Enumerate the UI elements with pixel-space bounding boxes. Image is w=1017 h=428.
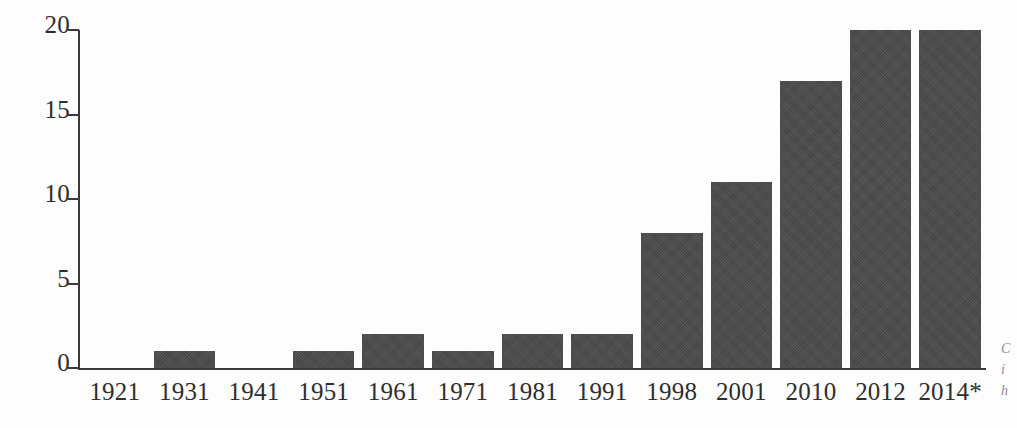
x-tick-label: 1941 bbox=[219, 378, 289, 407]
bar-group[interactable] bbox=[915, 30, 985, 368]
bar-group[interactable] bbox=[219, 30, 289, 368]
x-tick-label: 2012 bbox=[846, 378, 916, 407]
margin-caption-line-3: h bbox=[1001, 380, 1017, 401]
bar[interactable] bbox=[780, 81, 842, 368]
bar-group[interactable] bbox=[150, 30, 220, 368]
bar-group[interactable] bbox=[637, 30, 707, 368]
x-tick-label: 1951 bbox=[289, 378, 359, 407]
bar[interactable] bbox=[571, 334, 633, 368]
x-tick-label: 1961 bbox=[358, 378, 428, 407]
y-tick-mark bbox=[68, 283, 79, 285]
bar[interactable] bbox=[362, 334, 424, 368]
x-tick-label: 2014* bbox=[915, 378, 985, 407]
x-tick-label: 1991 bbox=[567, 378, 637, 407]
y-tick-label: 5 bbox=[10, 266, 70, 291]
x-axis-ticks: 1921193119411951196119711981199119982001… bbox=[80, 378, 985, 418]
bar[interactable] bbox=[919, 30, 981, 368]
bar-group[interactable] bbox=[567, 30, 637, 368]
y-tick-label: 15 bbox=[10, 97, 70, 122]
y-tick-mark bbox=[68, 198, 79, 200]
bar-group[interactable] bbox=[358, 30, 428, 368]
bar[interactable] bbox=[432, 351, 494, 368]
plot-area bbox=[80, 30, 985, 368]
y-tick-mark bbox=[68, 114, 79, 116]
y-tick-mark bbox=[68, 29, 79, 31]
y-tick-label: 0 bbox=[10, 350, 70, 375]
margin-caption-line-2: i bbox=[1001, 359, 1017, 380]
x-tick-label: 1981 bbox=[498, 378, 568, 407]
x-tick-label: 1971 bbox=[428, 378, 498, 407]
x-tick-label: 1931 bbox=[150, 378, 220, 407]
margin-caption-line-1: C bbox=[1001, 338, 1017, 359]
bar[interactable] bbox=[154, 351, 216, 368]
bar[interactable] bbox=[502, 334, 564, 368]
bar-group[interactable] bbox=[428, 30, 498, 368]
bar-group[interactable] bbox=[846, 30, 916, 368]
x-tick-label: 2010 bbox=[776, 378, 846, 407]
bar-chart-figure: 05101520 1921193119411951196119711981199… bbox=[0, 0, 1017, 428]
bar[interactable] bbox=[850, 30, 912, 368]
x-tick-label: 1998 bbox=[637, 378, 707, 407]
bar[interactable] bbox=[641, 233, 703, 368]
x-tick-label: 2001 bbox=[707, 378, 777, 407]
bar[interactable] bbox=[711, 182, 773, 368]
bar[interactable] bbox=[293, 351, 355, 368]
bar-group[interactable] bbox=[498, 30, 568, 368]
margin-caption-cropped: C i h bbox=[1001, 338, 1017, 416]
x-axis-line bbox=[78, 368, 986, 370]
x-tick-label: 1921 bbox=[80, 378, 150, 407]
bar-group[interactable] bbox=[80, 30, 150, 368]
y-tick-label: 10 bbox=[10, 181, 70, 206]
y-tick-label: 20 bbox=[10, 12, 70, 37]
bar-group[interactable] bbox=[776, 30, 846, 368]
bar-group[interactable] bbox=[707, 30, 777, 368]
bar-group[interactable] bbox=[289, 30, 359, 368]
